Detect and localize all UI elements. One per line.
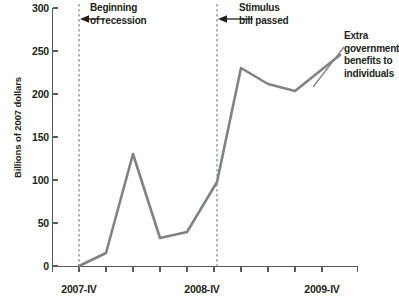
arrow-left-icon-recession [80, 15, 104, 22]
arrow-left-icon-stimulus [218, 15, 253, 22]
data-series-line [79, 55, 340, 266]
x-axis [53, 267, 358, 273]
leader-line-benefits [313, 47, 344, 87]
y-axis [53, 8, 58, 267]
